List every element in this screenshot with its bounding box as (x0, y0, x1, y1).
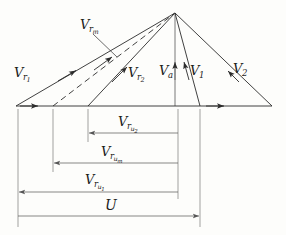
arrowhead-vr1 (58, 71, 76, 82)
label-v2-sub: 2 (242, 68, 247, 78)
ray-v2 (175, 13, 272, 106)
label-vrum-symbol: V (101, 144, 110, 159)
label-vru2-sub3: 2 (134, 128, 138, 134)
label-v1-sub: 1 (199, 70, 204, 80)
label-u-symbol: U (105, 197, 117, 213)
label-vrm-sub2: m (92, 28, 98, 36)
label-vru1-sub3: 1 (101, 186, 105, 192)
label-vr1-symbol: V (14, 65, 23, 80)
label-vru1-symbol: V (85, 172, 94, 187)
label-u: U (105, 197, 117, 213)
label-va-symbol: V (159, 63, 168, 78)
label-vrm-symbol: V (80, 17, 89, 32)
label-v2-symbol: V (233, 61, 242, 76)
label-va-sub1: a (168, 70, 173, 80)
arrowhead-v1 (184, 62, 189, 80)
diagram-canvas (0, 0, 286, 235)
arrowhead-vr2 (112, 67, 127, 82)
label-vr1-sub2: 1 (26, 76, 30, 84)
label-vr1: Vr1 (14, 64, 32, 80)
label-v1-symbol: V (190, 63, 199, 78)
velocity-triangle-figure: Vr1 Vrm Vr2 Va V1 V2 Vru2 Vrum Vru1 U (0, 0, 286, 235)
label-v2: V2 (233, 60, 248, 76)
label-vru2-symbol: V (118, 114, 127, 129)
label-v1: V1 (190, 62, 205, 78)
label-vrum-sub3: m (117, 158, 122, 164)
ray-v1 (175, 13, 200, 106)
ray-vr2 (88, 13, 175, 106)
label-vr2: Vr2 (128, 64, 146, 80)
label-vr2-sub2: 2 (140, 76, 144, 84)
label-vr2-symbol: V (128, 65, 137, 80)
ray-vrm (53, 13, 175, 106)
label-vrm: Vrm (80, 16, 100, 32)
label-vru1: Vru1 (85, 171, 106, 187)
label-vrum: Vrum (101, 143, 124, 159)
ray-arrowhead-group (58, 57, 239, 82)
label-va: Va (159, 62, 173, 78)
label-vru2: Vru2 (118, 113, 139, 129)
